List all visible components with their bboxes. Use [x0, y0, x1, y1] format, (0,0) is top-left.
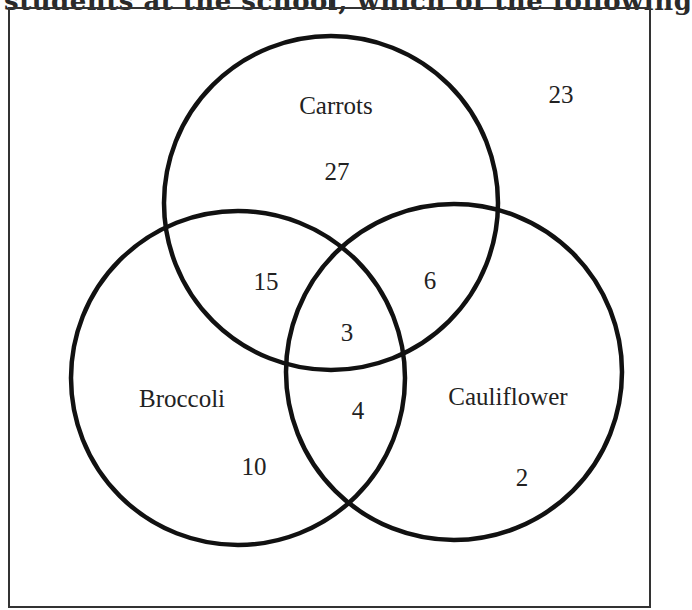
broccoli-circle: [71, 211, 405, 545]
region-carrots-broccoli: 15: [254, 268, 279, 295]
carrots-label: Carrots: [299, 92, 373, 119]
cauliflower-label: Cauliflower: [448, 383, 568, 410]
region-broccoli-only: 10: [242, 453, 267, 480]
region-broccoli-cauliflower: 4: [352, 397, 365, 424]
region-all-three: 3: [341, 319, 354, 346]
broccoli-label: Broccoli: [139, 385, 225, 412]
region-carrots-cauliflower: 6: [424, 267, 437, 294]
region-cauliflower-only: 2: [516, 464, 529, 491]
region-carrots-only: 27: [325, 158, 350, 185]
region-none: 23: [549, 81, 574, 108]
